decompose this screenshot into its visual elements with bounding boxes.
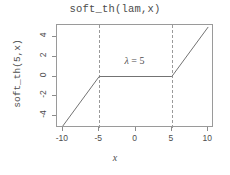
y-tick-label: 0 bbox=[36, 70, 50, 80]
y-tick-label-text: -2 bbox=[38, 91, 48, 99]
y-tick-label-text: 4 bbox=[38, 33, 48, 38]
y-tick-label: -4 bbox=[36, 109, 50, 119]
data-line bbox=[63, 27, 208, 126]
plot-frame bbox=[56, 24, 213, 127]
y-tick-mark bbox=[52, 115, 56, 116]
x-tick-mark bbox=[62, 127, 63, 131]
y-tick-mark bbox=[52, 76, 56, 77]
y-tick-label-text: 2 bbox=[38, 52, 48, 57]
x-tick-label: -5 bbox=[83, 133, 113, 143]
y-tick-mark bbox=[52, 36, 56, 37]
chart-title: soft_th(lam,x) bbox=[0, 3, 230, 15]
x-tick-label: 10 bbox=[192, 133, 222, 143]
plot-area bbox=[57, 25, 212, 126]
y-tick-label-text: -4 bbox=[38, 110, 48, 118]
x-tick-mark bbox=[98, 127, 99, 131]
y-tick-mark bbox=[52, 95, 56, 96]
y-tick-label-text: 0 bbox=[38, 72, 48, 77]
x-axis-label: x bbox=[0, 152, 230, 163]
x-tick-label: -10 bbox=[47, 133, 77, 143]
y-axis-label: soft_th(5,x) bbox=[12, 19, 23, 129]
x-tick-label: 0 bbox=[120, 133, 150, 143]
x-tick-mark bbox=[207, 127, 208, 131]
y-tick-label: 4 bbox=[36, 30, 50, 40]
y-tick-label: -2 bbox=[36, 89, 50, 99]
lambda-equals: = bbox=[129, 55, 140, 66]
x-tick-mark bbox=[171, 127, 172, 131]
x-tick-mark bbox=[135, 127, 136, 131]
x-tick-label: 5 bbox=[156, 133, 186, 143]
lambda-value: 5 bbox=[139, 55, 144, 66]
data-series-layer bbox=[57, 25, 214, 128]
annotation-lambda-label: λ = 5 bbox=[125, 55, 145, 66]
soft-threshold-plot: soft_th(lam,x) soft_th(5,x) x λ = 5-10-5… bbox=[0, 0, 230, 175]
y-tick-label: 2 bbox=[36, 50, 50, 60]
y-tick-mark bbox=[52, 56, 56, 57]
